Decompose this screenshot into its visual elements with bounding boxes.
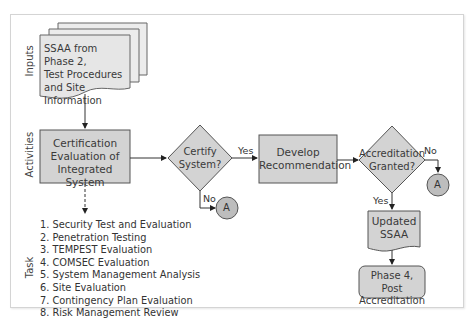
input-document-label: SSAA from Phase 2, Test Procedures and S… xyxy=(44,42,130,107)
task-item: 6. Site Evaluation xyxy=(40,282,200,295)
certification-label: Certification Evaluation of Integrated S… xyxy=(40,137,130,189)
connector-a-2-label: A xyxy=(434,179,441,190)
accreditation-line: Granted? xyxy=(356,160,428,173)
develop-line: Develop xyxy=(259,146,337,159)
certify-decision-label: Certify System? xyxy=(170,145,230,171)
accred-yes-label: Yes xyxy=(373,195,388,206)
certification-line: Integrated System xyxy=(40,163,130,189)
input-doc-line: and Site Information xyxy=(44,81,130,107)
accreditation-decision-label: Accreditation Granted? xyxy=(356,147,428,173)
phase4-line: Accreditation xyxy=(359,295,425,308)
task-item: 1. Security Test and Evaluation xyxy=(40,219,200,232)
task-item: 4. COMSEC Evaluation xyxy=(40,257,200,270)
develop-line: Recommendation xyxy=(259,159,337,172)
task-item: 8. Risk Management Review xyxy=(40,307,200,320)
task-item: 2. Penetration Testing xyxy=(40,232,200,245)
phase4-line: Phase 4, Post xyxy=(359,270,425,295)
certification-line: Certification xyxy=(40,137,130,150)
accred-no-label: No xyxy=(424,145,437,156)
input-doc-line: Test Procedures xyxy=(44,68,130,81)
certification-line: Evaluation of xyxy=(40,150,130,163)
lane-label-inputs: Inputs xyxy=(24,47,35,77)
updated-ssaa-line: SSAA xyxy=(368,228,420,241)
phase4-label: Phase 4, Post Accreditation xyxy=(359,270,425,308)
develop-label: Develop Recommendation xyxy=(259,146,337,172)
certify-line: System? xyxy=(170,158,230,171)
lane-label-task: Task xyxy=(24,255,35,281)
updated-ssaa-label: Updated SSAA xyxy=(368,215,420,241)
task-list: 1. Security Test and Evaluation 2. Penet… xyxy=(40,219,200,320)
lane-label-activities: Activities xyxy=(24,134,35,178)
task-item: 5. System Management Analysis xyxy=(40,269,200,282)
accreditation-line: Accreditation xyxy=(356,147,428,160)
updated-ssaa-line: Updated xyxy=(368,215,420,228)
input-doc-line: SSAA from Phase 2, xyxy=(44,42,130,68)
certify-no-label: No xyxy=(203,193,216,204)
connector-a-1-label: A xyxy=(223,202,230,213)
certify-line: Certify xyxy=(170,145,230,158)
task-item: 7. Contingency Plan Evaluation xyxy=(40,295,200,308)
task-item: 3. TEMPEST Evaluation xyxy=(40,244,200,257)
certify-yes-label: Yes xyxy=(238,145,253,156)
